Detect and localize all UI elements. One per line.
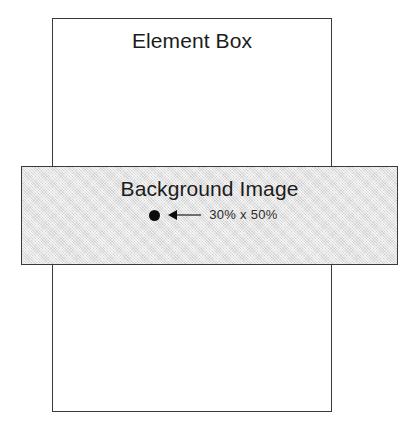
- size-annotation-label: 30% x 50%: [209, 207, 277, 223]
- filled-circle-icon: [149, 210, 160, 221]
- background-image-label: Background Image: [22, 176, 397, 202]
- arrowhead-left-icon: [168, 210, 177, 220]
- leader-line: [177, 214, 201, 216]
- background-image-box: Background Image 30% x 50%: [21, 166, 398, 265]
- element-box-label: Element Box: [53, 28, 331, 54]
- diagram-canvas: Element Box Background Image 30% x 50%: [0, 0, 412, 428]
- size-annotation: 30% x 50%: [22, 207, 397, 223]
